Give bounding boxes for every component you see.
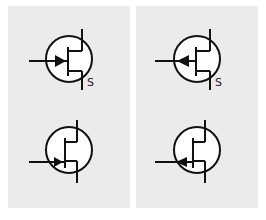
source-label: S xyxy=(87,76,94,89)
p-channel-mosfet-symbol: S xyxy=(136,6,258,208)
right-panel: S xyxy=(136,6,258,208)
p-channel-jfet-symbol xyxy=(155,120,220,183)
n-channel-jfet-symbol xyxy=(29,120,92,183)
source-label: S xyxy=(215,76,222,89)
left-panel: S xyxy=(8,6,130,208)
n-channel-mosfet-symbol: S xyxy=(8,6,130,208)
